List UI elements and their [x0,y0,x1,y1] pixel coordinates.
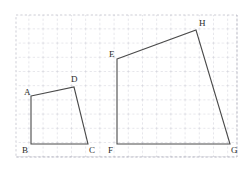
vertex-label-e: E [109,49,115,59]
vertex-label-f: F [108,145,113,155]
figure-svg: ADCBEHGF [0,0,251,169]
grid-region [16,15,237,157]
vertex-label-c: C [89,145,95,155]
vertex-label-a: A [24,87,31,97]
vertex-label-b: B [22,145,28,155]
vertex-label-h: H [199,18,206,28]
geometry-figure-canvas: ADCBEHGF [0,0,251,169]
vertex-label-g: G [231,145,238,155]
vertex-label-d: D [71,74,78,84]
grid-rect [16,15,237,157]
